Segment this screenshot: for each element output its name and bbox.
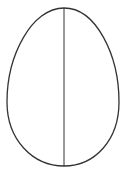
egg-diagram xyxy=(0,0,130,173)
egg-outline xyxy=(7,8,119,166)
egg-diagram-svg xyxy=(0,0,130,173)
